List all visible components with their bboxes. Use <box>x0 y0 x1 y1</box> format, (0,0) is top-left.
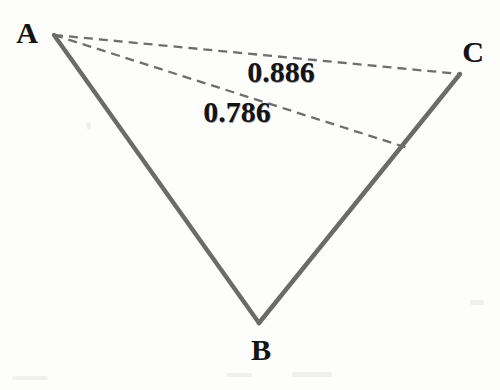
vertex-label-b: B <box>251 335 271 365</box>
vertex-label-a: A <box>16 18 38 48</box>
edge-BC-line <box>259 74 460 323</box>
geometry-figure: A B C 0.886 0.786 <box>0 0 500 390</box>
vertex-label-c: C <box>462 37 484 67</box>
measurement-label-a-bc: 0.786 <box>203 97 271 127</box>
segment-A-to-BC-dashed <box>54 35 408 148</box>
measurement-label-ac: 0.886 <box>247 57 315 87</box>
edge-AB-line <box>54 35 259 323</box>
